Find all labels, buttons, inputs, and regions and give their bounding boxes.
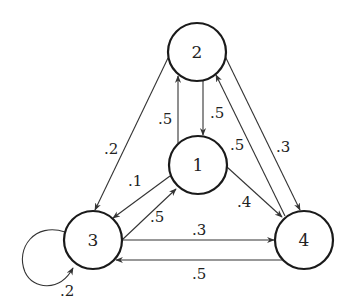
node-1: 1 [169, 136, 227, 194]
node-3: 3 [64, 211, 122, 269]
edge-2-to-4 [225, 56, 300, 210]
edge-label-3-to-4: .3 [192, 221, 206, 239]
edge-label-3-self-loop: .2 [60, 282, 74, 300]
markov-chain-diagram: .5 .5 .2 .3 .5 .1 .5 .4 .3 .5 .2 1 2 3 4 [0, 0, 358, 307]
edge-label-2-to-1: .5 [210, 104, 224, 122]
edge-label-1-to-4: .4 [237, 193, 251, 211]
node-4-label: 4 [299, 230, 310, 250]
edge-3-to-1 [122, 189, 176, 240]
node-4: 4 [275, 211, 333, 269]
node-2: 2 [168, 23, 226, 81]
edge-label-1-to-2: .5 [158, 110, 172, 128]
edge-label-1-to-3: .1 [128, 172, 142, 190]
node-2-label: 2 [192, 42, 203, 62]
edge-label-2-to-4: .3 [276, 138, 290, 156]
node-1-label: 1 [193, 155, 204, 175]
node-3-label: 3 [88, 230, 99, 250]
edge-label-3-to-1: .5 [150, 208, 164, 226]
edge-label-4-to-3: .5 [192, 265, 206, 283]
edge-label-2-to-3: .2 [104, 140, 118, 158]
edge-label-4-to-2: .5 [230, 136, 244, 154]
